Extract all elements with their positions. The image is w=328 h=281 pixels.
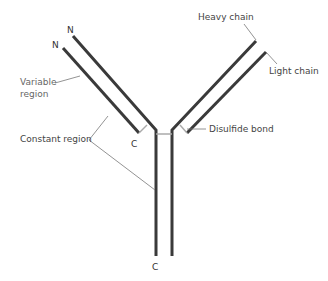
left-light-n-terminus: N: [52, 40, 59, 50]
disulfide-bond-label: Disulfide bond: [209, 124, 274, 135]
light-chain-label: Light chain: [269, 66, 319, 77]
constant-region-label: Constant region: [20, 134, 92, 145]
disulfide-bond-right: [180, 125, 187, 133]
left-light-c-terminus: C: [131, 139, 137, 149]
stem-c-terminus: C: [152, 262, 158, 272]
variable-region-leader: [55, 76, 80, 83]
left-light-chain: [63, 48, 139, 133]
light-chain-leader: [266, 52, 277, 64]
left-heavy-chain: [73, 36, 156, 256]
disulfide-bond-left: [139, 125, 147, 133]
left-heavy-n-terminus: N: [67, 25, 74, 35]
right-light-chain: [187, 52, 266, 133]
variable-region-label-line2: region: [20, 89, 48, 100]
heavy-chain-leader: [244, 24, 256, 40]
constant-region-leader-upper: [89, 116, 108, 140]
constant-region-leader-lower: [89, 140, 155, 190]
heavy-chain-label: Heavy chain: [198, 12, 254, 23]
variable-region-label-line1: Variable: [20, 77, 56, 88]
